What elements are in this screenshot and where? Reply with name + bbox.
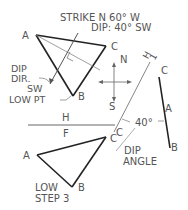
fold-label-h: H	[62, 112, 70, 123]
front-vertex-b: B	[78, 182, 85, 193]
compass-south: S	[109, 101, 115, 112]
front-vertex-a: A	[23, 150, 30, 161]
dip-dir-leader	[39, 78, 49, 82]
compass-north: N	[120, 54, 127, 65]
fold-c-label: C	[116, 127, 123, 138]
dip-angle-label-2: ANGLE	[123, 156, 157, 167]
dip-label: DIP: 40° SW	[91, 22, 151, 33]
angle-tick-left	[122, 119, 130, 122]
low-label: LOW	[35, 182, 58, 193]
diagram-canvas: STRIKE N 60° W DIP: 40° SW A B C DIP DIR…	[0, 0, 188, 210]
edge-vertex-c: C	[161, 65, 168, 76]
edge-vertex-a: A	[165, 103, 172, 114]
compass-rose	[98, 62, 132, 102]
front-vertex-c: C	[110, 133, 117, 144]
front-view-triangle	[37, 137, 106, 187]
step-label: STEP 3	[35, 193, 69, 204]
dip-angle-value: 40°	[135, 117, 153, 128]
fold-label-f: F	[63, 128, 69, 139]
top-view-triangle	[36, 33, 106, 96]
dip-dir-label-3: SW	[27, 83, 43, 94]
descriptive-geometry-diagram: STRIKE N 60° W DIP: 40° SW A B C DIP DIR…	[0, 0, 188, 210]
top-vertex-b: B	[78, 91, 85, 102]
edge-vertex-b: B	[171, 142, 178, 153]
low-point-label: LOW PT	[9, 94, 46, 105]
low-point-leader	[60, 96, 71, 100]
top-vertex-c: C	[111, 41, 118, 52]
dip-angle-label-1: DIP	[124, 145, 141, 156]
top-vertex-a: A	[22, 30, 29, 41]
